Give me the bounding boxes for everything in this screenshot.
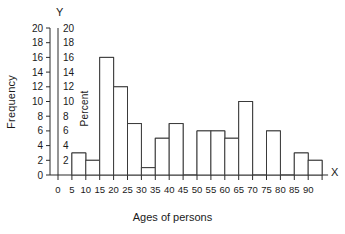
y2-tick-label: 18	[63, 37, 75, 48]
x-tick-label: 15	[94, 184, 105, 195]
y-tick-label: 2	[37, 155, 43, 166]
histogram-bar	[294, 153, 308, 175]
y2-tick-label: 2	[63, 155, 69, 166]
x-tick-label: 45	[178, 184, 189, 195]
histogram-bar	[128, 124, 142, 175]
x-axis: 051015202530354045505560657075808590	[50, 175, 328, 195]
histogram-bar	[86, 160, 100, 175]
y-tick-label: 4	[37, 140, 43, 151]
plot-area: 02468101214161820 2468101214161820 05101…	[0, 0, 345, 234]
histogram-bar	[211, 131, 225, 175]
histogram-bar	[308, 160, 322, 175]
histogram-bar	[197, 131, 211, 175]
histogram-bar	[72, 153, 86, 175]
x-tick-label: 80	[275, 184, 286, 195]
y2-tick-label: 8	[63, 111, 69, 122]
x-tick-label: 90	[303, 184, 314, 195]
y2-tick-label: 12	[63, 81, 75, 92]
frequency-axis: 02468101214161820	[32, 23, 50, 181]
histogram-bar	[141, 168, 155, 175]
y2-tick-label: 6	[63, 125, 69, 136]
x-tick-label: 70	[247, 184, 258, 195]
histogram-bar	[225, 138, 239, 175]
x-tick-label: 55	[206, 184, 217, 195]
percent-axis: 2468101214161820	[58, 23, 75, 176]
y-tick-label: 16	[32, 52, 44, 63]
x-tick-label: 5	[69, 184, 74, 195]
y-tick-label: 18	[32, 37, 44, 48]
y-tick-label: 14	[32, 67, 44, 78]
histogram-bar	[114, 87, 128, 175]
x-tick-label: 40	[164, 184, 175, 195]
x-tick-label: 65	[233, 184, 244, 195]
y-tick-label: 0	[37, 170, 43, 181]
y2-tick-label: 16	[63, 52, 75, 63]
histogram-bar	[100, 57, 114, 175]
histogram-chart: Frequency Percent Y X Ages of persons 02…	[0, 0, 345, 234]
x-tick-label: 35	[150, 184, 161, 195]
x-tick-label: 10	[81, 184, 92, 195]
x-tick-label: 60	[220, 184, 231, 195]
y-tick-label: 20	[32, 23, 44, 34]
y-tick-label: 6	[37, 125, 43, 136]
x-tick-label: 75	[261, 184, 272, 195]
x-tick-label: 30	[136, 184, 147, 195]
histogram-bar	[267, 131, 281, 175]
histogram-bar	[239, 102, 253, 176]
histogram-bar	[155, 138, 169, 175]
y-tick-label: 8	[37, 111, 43, 122]
bars-group	[72, 57, 322, 175]
histogram-bar	[169, 124, 183, 175]
y2-tick-label: 4	[63, 140, 69, 151]
x-tick-label: 50	[192, 184, 203, 195]
x-tick-label: 25	[122, 184, 133, 195]
x-tick-label: 20	[108, 184, 119, 195]
y-tick-label: 12	[32, 81, 44, 92]
y2-tick-label: 14	[63, 67, 75, 78]
x-tick-label: 0	[55, 184, 60, 195]
y2-tick-label: 10	[63, 96, 75, 107]
y-tick-label: 10	[32, 96, 44, 107]
y2-tick-label: 20	[63, 23, 75, 34]
x-tick-label: 85	[289, 184, 300, 195]
